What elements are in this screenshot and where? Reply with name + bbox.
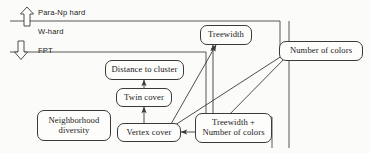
node-number-of-colors-line-1: Number of colors — [290, 46, 352, 56]
node-vertex-cover-line-1: Vertex cover — [127, 128, 172, 138]
node-twin-cover-line-1: Twin cover — [124, 93, 164, 103]
node-treewidth-plus-colors-line-2: Number of colors — [202, 128, 264, 138]
node-twin-cover[interactable]: Twin cover — [116, 88, 172, 107]
node-distance-to-cluster-line-1: Distance to cluster — [112, 65, 178, 75]
node-treewidth[interactable]: Treewidth — [200, 25, 252, 45]
node-treewidth-line-1: Treewidth — [208, 30, 244, 40]
node-number-of-colors[interactable]: Number of colors — [279, 41, 363, 61]
node-treewidth-plus-number-of-colors[interactable]: Treewidth + Number of colors — [195, 113, 272, 143]
region-label-fpt: FPT — [38, 46, 53, 55]
node-neighborhood-diversity-line-2: diversity — [59, 126, 90, 136]
node-vertex-cover[interactable]: Vertex cover — [117, 123, 181, 142]
node-distance-to-cluster[interactable]: Distance to cluster — [105, 60, 184, 80]
para-np-hard-arrow-icon — [21, 7, 34, 26]
diagram-canvas: Para-Np hard W-hard FPT Treewidth Number… — [0, 0, 370, 153]
node-neighborhood-diversity[interactable]: Neighborhood diversity — [37, 110, 111, 141]
region-label-w-hard: W-hard — [38, 27, 64, 36]
region-label-para-np-hard: Para-Np hard — [38, 8, 85, 17]
fpt-arrow-icon — [15, 41, 28, 60]
